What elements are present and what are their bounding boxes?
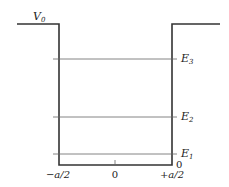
- tick-label-plus-a-half: +a/2: [160, 169, 184, 180]
- potential-label: V0: [33, 10, 46, 24]
- energy-label-e2: E2: [180, 110, 194, 124]
- potential-well-diagram: V0 E3 E2 E1 0 −a/2 0 +a/2: [0, 0, 229, 187]
- tick-label-zero: 0: [112, 169, 118, 180]
- tick-label-minus-a-half: −a/2: [46, 169, 70, 180]
- potential-well-outline: [17, 24, 220, 165]
- energy-label-e3: E3: [180, 52, 194, 66]
